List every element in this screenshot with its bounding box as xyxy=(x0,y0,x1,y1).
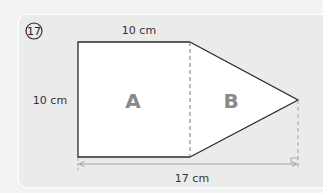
region-a-label: A xyxy=(125,89,141,113)
left-dimension-label: 10 cm xyxy=(33,94,67,107)
composite-shape-figure: 17 A B 10 cm 10 cm 17 cm xyxy=(0,0,323,193)
problem-number-text: 17 xyxy=(27,25,41,38)
top-dimension-label: 10 cm xyxy=(122,24,156,37)
right-angle-icon xyxy=(291,158,298,164)
problem-number: 17 xyxy=(26,23,42,39)
region-b-label: B xyxy=(223,89,238,113)
bottom-dimension-label: 17 cm xyxy=(175,172,209,185)
shape-fill xyxy=(78,42,298,157)
worksheet-stage: 17 A B 10 cm 10 cm 17 cm xyxy=(0,0,323,193)
